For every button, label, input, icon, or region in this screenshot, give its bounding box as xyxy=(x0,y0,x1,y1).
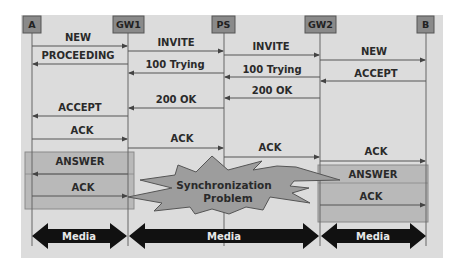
participant-label: B xyxy=(422,19,429,30)
callout-line-2: Problem xyxy=(203,192,252,204)
participant-label: GW2 xyxy=(308,19,333,30)
media-label: Media xyxy=(356,231,390,242)
message-label: ACK xyxy=(360,191,384,202)
participant-gw1: GW1 xyxy=(113,16,144,33)
sip-synchronization-sequence-diagram: A GW1 PS GW2 B NEW INVITE PROCEEDING INV… xyxy=(0,0,453,268)
participant-label: GW1 xyxy=(116,19,141,30)
participant-a: A xyxy=(23,16,41,33)
message-label: ANSWER xyxy=(349,169,398,180)
message-label: INVITE xyxy=(252,41,289,52)
message-answer-b-gw2: ANSWER xyxy=(349,169,398,180)
message-label: NEW xyxy=(65,32,91,43)
message-label: 200 OK xyxy=(252,85,294,96)
media-label: Media xyxy=(62,231,96,242)
message-label: ANSWER xyxy=(56,156,105,167)
message-label: PROCEEDING xyxy=(41,50,114,61)
message-label: ACK xyxy=(365,146,389,157)
callout-line-1: Synchronization xyxy=(176,179,272,191)
message-label: 200 OK xyxy=(156,94,198,105)
message-label: ACK xyxy=(259,142,283,153)
media-label: Media xyxy=(207,231,241,242)
participant-b: B xyxy=(417,16,434,33)
participant-label: A xyxy=(28,19,36,30)
message-label: 100 Trying xyxy=(145,59,204,70)
participant-label: PS xyxy=(217,19,231,30)
message-label: ACK xyxy=(71,125,95,136)
message-label: 100 Trying xyxy=(242,64,301,75)
message-label: ACCEPT xyxy=(58,102,102,113)
participant-ps: PS xyxy=(212,16,235,33)
participant-gw2: GW2 xyxy=(305,16,336,33)
message-label: NEW xyxy=(361,46,387,57)
message-label: ACCEPT xyxy=(354,68,398,79)
message-label: ACK xyxy=(72,182,96,193)
message-label: INVITE xyxy=(157,37,194,48)
message-label: ACK xyxy=(171,133,195,144)
